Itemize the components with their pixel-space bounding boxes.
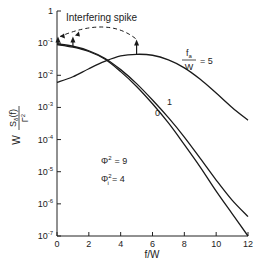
- y-tick-label: 10-3: [38, 101, 54, 112]
- x-tick-label: 2: [86, 239, 91, 249]
- svg-text:W: W: [185, 62, 194, 72]
- y-label-denominator: Γ2: [20, 113, 30, 122]
- svg-text:Φ2= 9: Φ2= 9: [101, 155, 127, 166]
- x-tick-label: 0: [54, 239, 59, 249]
- spike-arrowhead: [56, 36, 61, 42]
- arc-arrowhead: [75, 31, 80, 36]
- spectrum-chart: 110-110-210-310-410-510-610-7024681012 f…: [0, 0, 263, 262]
- svg-text:Φ2i= 4: Φ2i= 4: [101, 173, 125, 186]
- curve-fa-0: [57, 45, 248, 236]
- spike-dashed-arc: [60, 27, 136, 39]
- curve-fa-5: [57, 54, 248, 120]
- y-tick-label: 10-4: [38, 134, 54, 145]
- series-label-1: 1: [167, 97, 172, 107]
- y-label-numerator: Sδ(f): [8, 109, 19, 127]
- y-tick-label: 10-1: [38, 37, 54, 48]
- annotations: [56, 27, 140, 54]
- spike-label: Interfering spike: [66, 12, 138, 23]
- param-phi-squared: Φ2= 9: [101, 155, 127, 166]
- x-tick-label: 10: [211, 239, 221, 249]
- y-label-prefix: W: [11, 135, 22, 145]
- axes: 110-110-210-310-410-510-610-7024681012: [38, 6, 253, 249]
- series-label-0: 0: [155, 108, 160, 118]
- y-tick-label: 10-6: [38, 198, 54, 209]
- svg-text:= 5: = 5: [200, 56, 213, 66]
- spike-arrowhead: [70, 36, 75, 42]
- y-tick-label: 10-7: [38, 230, 54, 241]
- y-tick-label: 10-2: [38, 69, 54, 80]
- x-tick-label: 6: [150, 239, 155, 249]
- x-tick-label: 12: [243, 239, 253, 249]
- y-axis-label: W Sδ(f) Γ2: [8, 106, 30, 145]
- y-tick-label: 10-5: [38, 166, 54, 177]
- series-label-5: fa W = 5: [182, 48, 213, 72]
- x-axis-label: f/W: [145, 249, 161, 260]
- arc-arrowhead: [60, 33, 65, 38]
- x-tick-label: 4: [118, 239, 123, 249]
- svg-text:fa: fa: [186, 48, 193, 59]
- y-tick-label: 1: [48, 6, 53, 16]
- x-tick-label: 8: [182, 239, 187, 249]
- param-phi-i-squared: Φ2i= 4: [101, 173, 125, 186]
- curves: [57, 44, 248, 236]
- spike-arrowhead: [134, 40, 139, 46]
